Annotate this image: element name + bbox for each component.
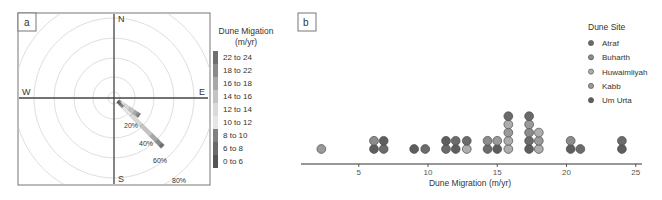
- dot-atraf: [421, 145, 430, 154]
- dot-legend-title: Dune Site: [588, 22, 626, 32]
- wind-rose-legend-title: Dune Migation: [219, 26, 274, 36]
- legend-site-label: Atraf: [602, 39, 620, 48]
- dot-um-urta: [370, 145, 379, 154]
- legend-bin-label: 16 to 18: [223, 79, 252, 88]
- legend-bin-label: 0 to 6: [223, 157, 244, 166]
- legend-swatch-8: [213, 155, 218, 168]
- ring-label-80: 80%: [172, 177, 186, 184]
- dot-huwaimliyah: [504, 145, 513, 154]
- dot-atraf: [525, 112, 534, 121]
- legend-site-label: Huwaimliyah: [602, 68, 647, 77]
- legend-dot-buharth: [588, 55, 593, 60]
- dot-buharth: [566, 136, 575, 145]
- dot-buharth: [525, 128, 534, 137]
- legend-swatch-4: [213, 103, 218, 116]
- dot-atraf: [576, 145, 585, 154]
- legend-dot-kabb: [588, 83, 593, 88]
- x-axis-label: Dune Migration (m/yr): [429, 178, 511, 188]
- wind-rose-legend: 22 to 2418 to 2216 to 1814 to 1612 to 14…: [213, 51, 252, 168]
- dot-um-urta: [493, 145, 502, 154]
- dot-atraf: [442, 145, 451, 154]
- panel-b-dot-plot: b 510152025 Dune Migration (m/yr) Dune S…: [298, 13, 647, 188]
- dot-atraf: [483, 145, 492, 154]
- legend-bin-label: 10 to 12: [223, 118, 252, 127]
- legend-site-label: Um Urta: [602, 96, 632, 105]
- dot-kabb: [525, 120, 534, 129]
- legend-bin-label: 12 to 14: [223, 105, 252, 114]
- dot-kabb: [493, 136, 502, 145]
- x-tick-label: 25: [631, 168, 640, 177]
- dot-huwaimliyah: [504, 136, 513, 145]
- dot-kabb: [534, 136, 543, 145]
- x-axis-ticks: 510152025: [357, 164, 641, 177]
- dot-atraf: [504, 112, 513, 121]
- dot-huwaimliyah: [462, 145, 471, 154]
- dot-legend: AtrafBuharthHuwaimliyahKabbUm Urta: [588, 39, 647, 105]
- legend-dot-atraf: [588, 40, 593, 45]
- figure: 20%40%60%80% N E S W a Dune Migation (m/…: [0, 0, 662, 200]
- direction-east: E: [199, 87, 205, 97]
- legend-bin-label: 14 to 16: [223, 92, 252, 101]
- x-tick-label: 5: [357, 168, 362, 177]
- wind-rose-legend-units: (m/yr): [235, 37, 257, 47]
- dot-huwaimliyah: [534, 145, 543, 154]
- dot-um-urta: [410, 145, 419, 154]
- dot-um-urta: [379, 136, 388, 145]
- ring-label-60: 60%: [153, 157, 167, 164]
- x-tick-label: 10: [424, 168, 433, 177]
- direction-north: N: [118, 14, 125, 24]
- legend-swatch-3: [213, 90, 218, 103]
- legend-swatch-2: [213, 77, 218, 90]
- dot-um-urta: [451, 145, 460, 154]
- dot-buharth: [370, 136, 379, 145]
- ring-label-40: 40%: [139, 140, 153, 147]
- legend-dot-um-urta: [588, 98, 593, 103]
- dot-atraf: [462, 136, 471, 145]
- dot-buharth: [483, 136, 492, 145]
- dot-atraf: [618, 136, 627, 145]
- dot-stacks: [317, 112, 626, 154]
- legend-dot-huwaimliyah: [588, 69, 593, 74]
- legend-swatch-0: [213, 51, 218, 64]
- dot-um-urta: [566, 145, 575, 154]
- dot-atraf: [451, 136, 460, 145]
- dot-huwaimliyah: [504, 120, 513, 129]
- dot-atraf: [379, 145, 388, 154]
- dot-um-urta: [442, 136, 451, 145]
- direction-west: W: [22, 87, 31, 97]
- panel-a-label: a: [24, 17, 30, 28]
- legend-bin-label: 22 to 24: [223, 53, 252, 62]
- legend-swatch-5: [213, 116, 218, 129]
- dot-um-urta: [525, 145, 534, 154]
- legend-swatch-6: [213, 129, 218, 142]
- legend-bin-label: 6 to 8: [223, 144, 244, 153]
- legend-bin-label: 8 to 10: [223, 131, 248, 140]
- legend-site-label: Kabb: [602, 82, 621, 91]
- dot-huwaimliyah: [534, 128, 543, 137]
- dot-kabb: [504, 128, 513, 137]
- x-tick-label: 15: [493, 168, 502, 177]
- panel-a-wind-rose: 20%40%60%80% N E S W a Dune Migation (m/…: [14, 0, 274, 198]
- x-tick-label: 20: [562, 168, 571, 177]
- dot-um-urta: [618, 145, 627, 154]
- dot-atraf: [525, 136, 534, 145]
- dot-kabb: [317, 145, 326, 154]
- legend-swatch-1: [213, 64, 218, 77]
- direction-south: S: [118, 174, 124, 184]
- legend-site-label: Buharth: [602, 53, 630, 62]
- legend-bin-label: 18 to 22: [223, 66, 252, 75]
- ring-label-20: 20%: [124, 122, 138, 129]
- panel-b-label: b: [303, 17, 309, 28]
- legend-swatch-7: [213, 142, 218, 155]
